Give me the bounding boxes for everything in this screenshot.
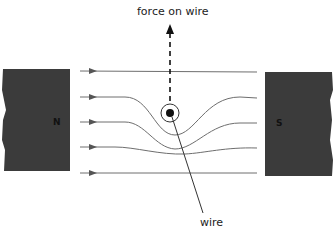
arrow-icon	[89, 119, 97, 125]
force-arrow	[166, 24, 174, 110]
arrow-icon	[89, 170, 97, 176]
magnetic-field-diagram	[0, 0, 335, 234]
wire-cross-section	[161, 104, 179, 122]
arrow-icon	[89, 94, 97, 100]
south-pole-label: S	[276, 118, 282, 128]
wire-label: wire	[200, 216, 223, 229]
force-on-wire-label: force on wire	[137, 5, 209, 18]
wire-leader-line	[172, 117, 203, 213]
arrow-icon	[89, 68, 97, 74]
field-arrows	[89, 68, 97, 176]
field-line-1	[80, 71, 257, 72]
arrow-icon	[89, 144, 97, 150]
field-line-3	[80, 122, 257, 149]
north-pole-label: N	[53, 117, 61, 127]
arrow-up-icon	[166, 24, 174, 34]
